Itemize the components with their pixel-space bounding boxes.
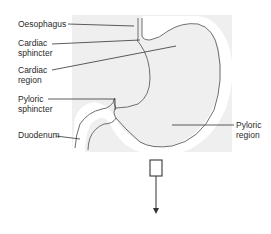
label-cardiac-sphincter-line2: sphincter bbox=[18, 48, 53, 58]
arrow-down-icon bbox=[153, 208, 159, 214]
label-oesophagus: Oesophagus bbox=[18, 19, 66, 29]
label-pyloric-region-line2: region bbox=[236, 130, 262, 140]
label-cardiac-sphincter: Cardiac sphincter bbox=[18, 38, 53, 58]
label-pyloric-sphincter: Pyloric sphincter bbox=[18, 94, 53, 114]
label-pyloric-region-line1: Pyloric bbox=[236, 120, 262, 130]
label-cardiac-region: Cardiac region bbox=[18, 65, 47, 85]
label-cardiac-region-line2: region bbox=[18, 75, 47, 85]
label-cardiac-region-line1: Cardiac bbox=[18, 65, 47, 75]
label-pyloric-region: Pyloric region bbox=[236, 120, 262, 140]
label-oesophagus-text: Oesophagus bbox=[18, 19, 66, 29]
label-duodenum: Duodenum bbox=[18, 130, 60, 140]
callout-box bbox=[150, 160, 162, 176]
label-duodenum-text: Duodenum bbox=[18, 130, 60, 140]
stomach-diagram bbox=[0, 0, 271, 234]
label-pyloric-sphincter-line1: Pyloric bbox=[18, 94, 53, 104]
label-cardiac-sphincter-line1: Cardiac bbox=[18, 38, 53, 48]
label-pyloric-sphincter-line2: sphincter bbox=[18, 104, 53, 114]
